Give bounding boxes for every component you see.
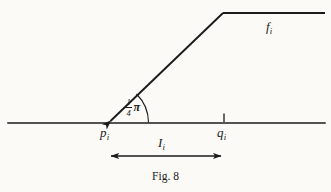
function-label-f: fi bbox=[266, 20, 272, 36]
angle-label: 1 4 π bbox=[125, 98, 140, 117]
figure-container: fi pi qi Ii 1 4 π Fig. 8 bbox=[0, 0, 331, 192]
point-label-q-base: q bbox=[217, 125, 224, 140]
point-label-p-subscript: i bbox=[107, 132, 109, 142]
angle-denominator: 4 bbox=[125, 108, 131, 117]
pi-symbol: π bbox=[134, 100, 141, 115]
interval-label-I-base: I bbox=[158, 135, 162, 150]
point-label-p: pi bbox=[100, 126, 109, 142]
interval-label-I-subscript: i bbox=[163, 142, 165, 152]
point-label-p-base: p bbox=[100, 125, 107, 140]
figure-drawing bbox=[0, 0, 331, 192]
function-label-f-subscript: i bbox=[270, 26, 272, 36]
figure-caption: Fig. 8 bbox=[0, 170, 331, 182]
point-label-q-subscript: i bbox=[224, 132, 226, 142]
interval-label-I: Ii bbox=[158, 136, 165, 152]
angle-numerator: 1 bbox=[125, 98, 131, 107]
point-label-q: qi bbox=[217, 126, 226, 142]
angle-fraction: 1 4 bbox=[125, 98, 132, 117]
